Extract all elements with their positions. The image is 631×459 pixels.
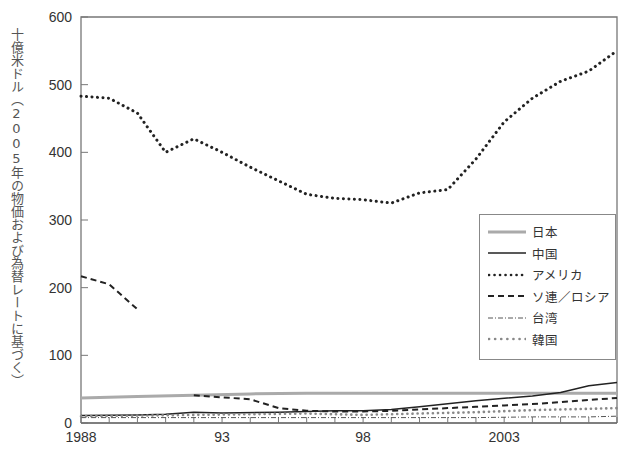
- legend-label: 日本: [532, 222, 558, 241]
- y-tick-label: 300: [49, 212, 73, 228]
- legend-swatch-ussr-russia: [488, 291, 526, 301]
- x-tick-label: 2003: [489, 429, 520, 445]
- x-tick-label: 1988: [65, 429, 96, 445]
- y-axis-label: 十億米ドル（2005年の物価および為替レートに基づく）: [8, 28, 24, 387]
- legend-item-ussr-russia: ソ連／ロシア: [488, 286, 615, 308]
- y-tick-label: 600: [49, 9, 73, 25]
- y-tick-label: 500: [49, 77, 73, 93]
- legend-item-taiwan: 台湾: [488, 307, 615, 329]
- series-line-1: [81, 382, 617, 415]
- legend-label: 韓国: [532, 330, 558, 349]
- series-line-5: [81, 408, 617, 416]
- series-line-4: [81, 416, 617, 417]
- legend-item-china: 中国: [488, 243, 615, 265]
- legend-label: アメリカ: [532, 265, 583, 284]
- legend-swatch-korea: [488, 334, 526, 344]
- y-tick-label: 400: [49, 144, 73, 160]
- legend-swatch-china: [488, 248, 526, 258]
- y-tick-label: 200: [49, 280, 73, 296]
- legend-label: ソ連／ロシア: [532, 287, 610, 306]
- series-line-3: [81, 276, 137, 309]
- legend-item-usa: アメリカ: [488, 264, 615, 286]
- legend-label: 台湾: [532, 308, 558, 327]
- x-tick-label: 93: [214, 429, 230, 445]
- legend-item-japan: 日本: [488, 221, 615, 243]
- legend-item-korea: 韓国: [488, 329, 615, 351]
- legend: 日本 中国 アメリカ ソ連／ロシア 台湾 韓国: [479, 214, 616, 360]
- series-line-2: [81, 51, 617, 203]
- legend-swatch-usa: [488, 270, 526, 280]
- y-tick-label: 100: [49, 347, 73, 363]
- series-line-3: [194, 395, 617, 411]
- legend-label: 中国: [532, 244, 558, 263]
- legend-swatch-japan: [488, 227, 526, 237]
- x-tick-label: 98: [355, 429, 371, 445]
- legend-swatch-taiwan: [488, 313, 526, 323]
